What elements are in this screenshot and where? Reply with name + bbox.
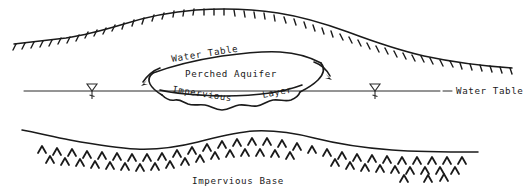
label-water-table-perched: Water Table <box>171 43 239 64</box>
ground-surface-group <box>13 9 512 74</box>
regional-water-table-group <box>24 84 452 99</box>
lens-left-flank <box>149 73 162 95</box>
label-perched-aquifer: Perched Aquifer <box>185 68 277 79</box>
lens-right-flank <box>300 63 323 92</box>
label-impervious-base: Impervious Base <box>192 175 284 186</box>
label-water-table-regional: Water Table <box>456 85 523 96</box>
ground-surface-line <box>14 9 512 68</box>
diagram-canvas: Water Table Perched Aquifer Impervious L… <box>0 0 532 196</box>
perched-aquifer-diagram: Water Table Perched Aquifer Impervious L… <box>0 0 532 196</box>
label-layer: Layer <box>261 84 292 100</box>
ground-surface-hachures <box>13 9 512 74</box>
seepage-arrow-right-head <box>325 74 332 80</box>
